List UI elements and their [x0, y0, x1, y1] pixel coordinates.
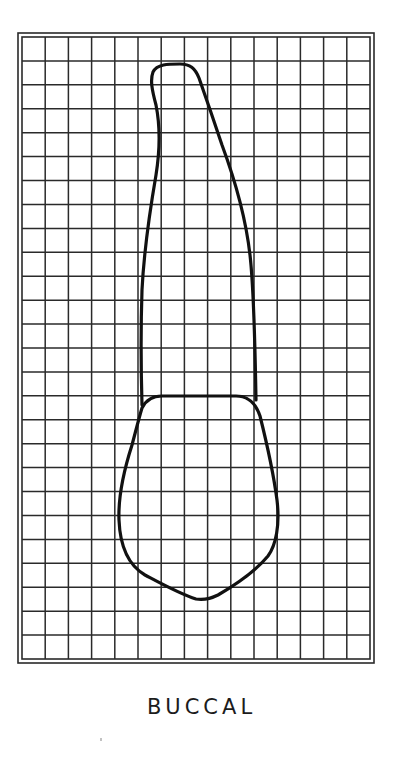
grid-lines [22, 37, 370, 659]
root-outline [141, 64, 256, 405]
scan-artifact [100, 738, 102, 741]
tooth-grid-diagram [0, 0, 395, 766]
view-caption: BUCCAL [0, 695, 395, 719]
